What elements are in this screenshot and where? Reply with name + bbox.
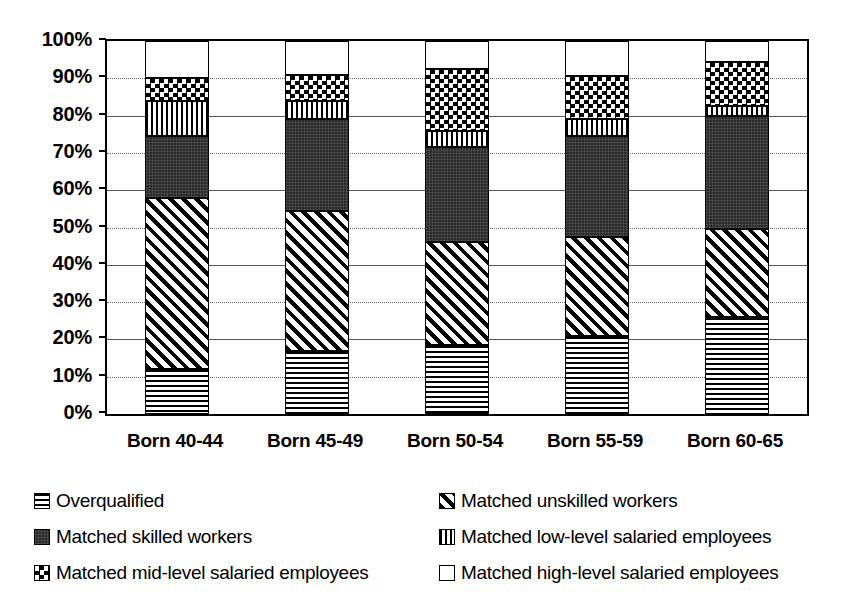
bar-segment	[425, 242, 489, 345]
bar-stack	[705, 41, 769, 414]
bar-stack	[145, 41, 209, 414]
legend: OverqualifiedMatched unskilled workersMa…	[34, 487, 834, 595]
plot-area	[105, 39, 809, 416]
y-tick-label: 90%	[53, 65, 92, 88]
y-tick-label: 70%	[53, 139, 92, 162]
x-tick-label: Born 45-49	[267, 430, 363, 452]
bar-segment	[145, 41, 209, 78]
y-tick-label: 80%	[53, 102, 92, 125]
bar-segment	[565, 237, 629, 336]
bar-segment	[285, 351, 349, 414]
y-tick-label: 100%	[42, 28, 92, 51]
bar-segment	[425, 69, 489, 131]
legend-item[interactable]: Matched high-level salaried employees	[439, 559, 834, 586]
y-tick-label: 60%	[53, 177, 92, 200]
legend-row: OverqualifiedMatched unskilled workers	[34, 487, 834, 514]
x-tick-label: Born 55-59	[547, 430, 643, 452]
x-tick-label: Born 60-65	[687, 430, 783, 452]
legend-swatch-icon	[439, 529, 455, 545]
legend-label: Matched high-level salaried employees	[461, 562, 778, 584]
bar-segment	[145, 136, 209, 198]
bar-segment	[425, 131, 489, 148]
legend-swatch-icon	[439, 493, 455, 509]
bar-segment	[565, 41, 629, 76]
y-axis: 100%90%80%70%60%50%40%30%20%10%0%	[0, 39, 92, 412]
bar-segment	[285, 119, 349, 210]
y-tick-label: 10%	[53, 363, 92, 386]
legend-item[interactable]: Matched unskilled workers	[439, 487, 834, 514]
legend-swatch-icon	[34, 493, 50, 509]
bar-segment	[285, 41, 349, 75]
bar-segment	[565, 336, 629, 414]
y-tick-label: 40%	[53, 251, 92, 274]
bar-stack	[285, 41, 349, 414]
legend-item[interactable]: Matched mid-level salaried employees	[34, 559, 439, 586]
legend-label: Matched mid-level salaried employees	[56, 562, 368, 584]
legend-row: Matched skilled workersMatched low-level…	[34, 523, 834, 550]
bar-segment	[565, 119, 629, 136]
y-tick-label: 0%	[63, 401, 92, 424]
bar-segment	[145, 369, 209, 414]
bar-segment	[565, 76, 629, 119]
bar-segment	[565, 136, 629, 237]
x-tick-label: Born 40-44	[127, 430, 223, 452]
legend-item[interactable]: Matched skilled workers	[34, 523, 439, 550]
bar-segment	[145, 198, 209, 370]
bar-segment	[705, 41, 769, 62]
bar-segment	[285, 211, 349, 351]
bar-segment	[705, 116, 769, 230]
bar-segment	[285, 101, 349, 120]
bar-column	[285, 41, 349, 414]
legend-label: Matched skilled workers	[56, 526, 252, 548]
y-tick-label: 20%	[53, 326, 92, 349]
bar-segment	[145, 78, 209, 100]
legend-swatch-icon	[34, 565, 50, 581]
bar-segment	[425, 345, 489, 414]
bar-column	[425, 41, 489, 414]
stacked-bar-chart: 100%90%80%70%60%50%40%30%20%10%0% Born 4…	[0, 0, 847, 596]
bar-segment	[705, 317, 769, 414]
bar-segment	[425, 41, 489, 69]
x-axis: Born 40-44Born 45-49Born 50-54Born 55-59…	[105, 430, 805, 460]
bar-column	[565, 41, 629, 414]
bar-segment	[705, 229, 769, 317]
bar-stack	[425, 41, 489, 414]
legend-swatch-icon	[34, 529, 50, 545]
bar-segment	[145, 101, 209, 136]
legend-label: Overqualified	[56, 490, 164, 512]
bar-segment	[425, 147, 489, 242]
bar-segment	[705, 106, 769, 115]
bar-segment	[285, 75, 349, 101]
legend-swatch-icon	[439, 565, 455, 581]
y-tick-label: 30%	[53, 289, 92, 312]
bar-segment	[705, 62, 769, 107]
y-tick-label: 50%	[53, 214, 92, 237]
bar-column	[145, 41, 209, 414]
legend-item[interactable]: Matched low-level salaried employees	[439, 523, 834, 550]
legend-label: Matched low-level salaried employees	[461, 526, 771, 548]
legend-label: Matched unskilled workers	[461, 490, 677, 512]
bar-column	[705, 41, 769, 414]
bar-stack	[565, 41, 629, 414]
legend-item[interactable]: Overqualified	[34, 487, 439, 514]
x-tick-label: Born 50-54	[407, 430, 503, 452]
legend-row: Matched mid-level salaried employeesMatc…	[34, 559, 834, 586]
